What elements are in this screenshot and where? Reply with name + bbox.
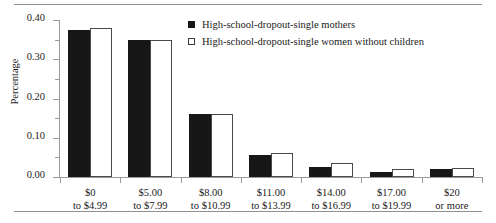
y-tick-minor <box>55 79 59 80</box>
y-tick-label: 0.10 <box>27 130 45 141</box>
y-tick: 0.00 <box>53 177 59 178</box>
y-tick-label: 0.20 <box>27 91 45 102</box>
bar-open <box>331 163 353 177</box>
x-axis-separator <box>422 177 423 183</box>
bar-filled <box>370 172 392 177</box>
legend-label: High-school-dropout-single women without… <box>202 36 424 47</box>
legend-item: High-school-dropout-single women without… <box>188 34 424 49</box>
x-axis-label-line: $20 <box>416 186 488 199</box>
y-tick-label: 0.00 <box>27 169 45 180</box>
x-axis-separator <box>482 177 483 183</box>
y-tick: 0.10 <box>53 138 59 139</box>
bar-open <box>392 169 414 177</box>
y-tick-label: 0.30 <box>27 51 45 62</box>
bar-filled <box>249 155 271 177</box>
bar-open <box>211 114 233 177</box>
y-axis-title: Percentage <box>9 37 20 127</box>
x-axis-separator <box>361 177 362 183</box>
y-tick: 0.40 <box>53 20 59 21</box>
y-tick: 0.20 <box>53 99 59 100</box>
legend-swatch-open <box>188 38 195 45</box>
y-tick-minor <box>55 157 59 158</box>
x-axis-separator <box>301 177 302 183</box>
legend-item: High-school-dropout-single mothers <box>188 17 424 32</box>
bar-group: $5.00to $7.99 <box>120 20 180 178</box>
x-axis-separator <box>60 177 61 183</box>
bar-pair <box>60 20 120 177</box>
y-tick-label: 0.40 <box>27 12 45 23</box>
bar-pair <box>120 20 180 177</box>
x-axis-separator <box>241 177 242 183</box>
y-tick-minor <box>55 118 59 119</box>
bar-group: $20or more <box>422 20 482 178</box>
chart-figure: Percentage 0.000.100.200.300.40 $0to $4.… <box>0 0 496 223</box>
bar-group: $0to $4.99 <box>60 20 120 178</box>
bar-open <box>90 28 112 177</box>
bar-filled <box>430 169 452 177</box>
bar-filled <box>309 167 331 177</box>
bar-filled <box>189 114 211 177</box>
x-axis-separator <box>181 177 182 183</box>
top-divider <box>14 4 482 5</box>
bar-open <box>271 153 293 177</box>
y-tick-minor <box>55 40 59 41</box>
bar-filled <box>68 30 90 177</box>
x-axis-label-line: or more <box>416 199 488 212</box>
bar-open <box>452 168 474 177</box>
y-tick: 0.30 <box>53 59 59 60</box>
bar-pair <box>422 20 482 177</box>
bar-open <box>150 40 172 177</box>
chart-legend: High-school-dropout-single mothersHigh-s… <box>188 17 424 51</box>
x-axis-separator <box>120 177 121 183</box>
bar-filled <box>128 40 150 177</box>
legend-label: High-school-dropout-single mothers <box>202 19 355 30</box>
x-axis-label: $20or more <box>416 186 488 212</box>
legend-swatch-filled <box>188 21 195 28</box>
